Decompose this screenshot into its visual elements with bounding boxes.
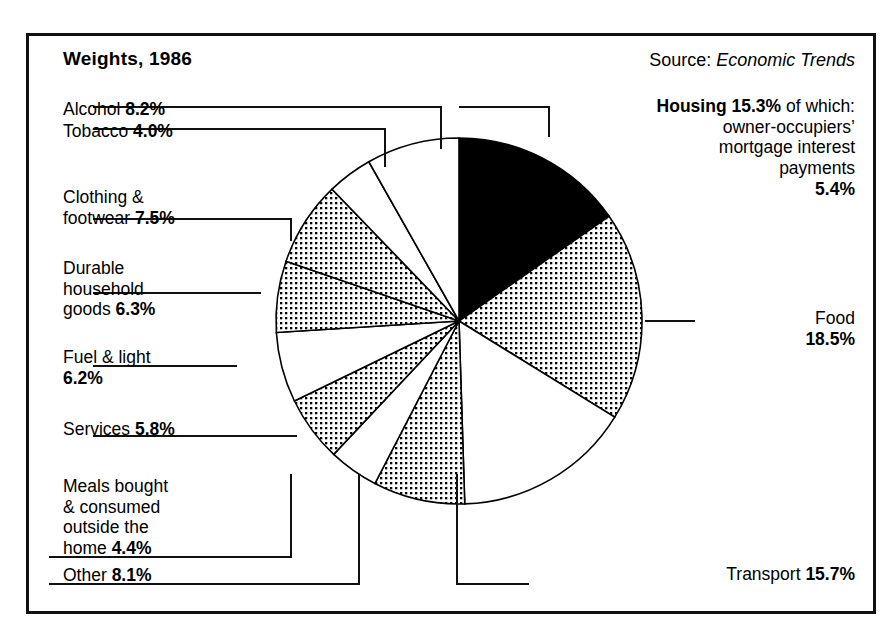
label-durable-household-goods: Durable household goods 6.3%: [63, 258, 155, 320]
label-alcohol: Alcohol 8.2%: [63, 99, 165, 120]
label-transport: Transport 15.7%: [535, 564, 855, 585]
label-fuel-light: Fuel & light 6.2%: [63, 347, 151, 388]
label-other: Other 8.1%: [63, 565, 152, 586]
leader-housing: [459, 107, 549, 137]
label-food: Food 18.5%: [635, 308, 855, 349]
label-meals-outside-home: Meals bought & consumed outside the home…: [63, 476, 168, 559]
chart-frame: Weights, 1986 Source: Economic Trends: [26, 33, 876, 614]
label-clothing-footwear: Clothing & footwear 7.5%: [63, 187, 175, 228]
label-housing: Housing 15.3% of which: owner-occupiers’…: [555, 96, 855, 199]
label-services: Services 5.8%: [63, 419, 175, 440]
label-tobacco: Tobacco 4.0%: [63, 121, 173, 142]
